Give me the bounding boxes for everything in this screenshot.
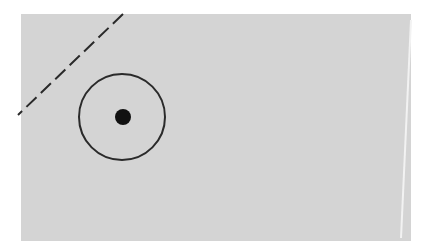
diagram-canvas bbox=[0, 0, 422, 249]
center-dot bbox=[115, 109, 131, 125]
